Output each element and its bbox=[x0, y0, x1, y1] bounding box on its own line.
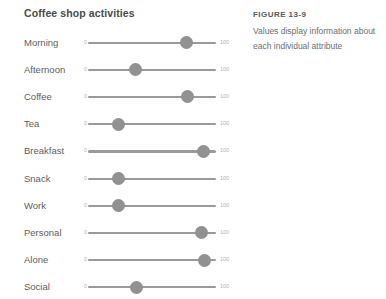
slider-min-label: 0 bbox=[84, 149, 87, 155]
slider-row-label: Morning bbox=[24, 38, 58, 48]
slider-min-label: 0 bbox=[84, 257, 87, 263]
slider-handle[interactable] bbox=[195, 226, 208, 239]
slider-min-label: 0 bbox=[84, 121, 87, 127]
slider-track[interactable] bbox=[88, 96, 216, 98]
slider-max-label: 100 bbox=[220, 121, 229, 127]
slider-handle[interactable] bbox=[112, 172, 125, 185]
slider-row: Morning0100 bbox=[0, 29, 246, 56]
slider-max-label: 100 bbox=[220, 149, 229, 155]
slider-row-label: Personal bbox=[24, 228, 62, 238]
figure-container: Coffee shop activities Morning0100Aftern… bbox=[0, 0, 386, 299]
slider-work[interactable]: 0100 bbox=[84, 192, 232, 219]
slider-row: Work0100 bbox=[0, 192, 246, 219]
slider-min-label: 0 bbox=[84, 40, 87, 46]
slider-max-label: 100 bbox=[220, 203, 229, 209]
slider-min-label: 0 bbox=[84, 203, 87, 209]
slider-row-label: Snack bbox=[24, 174, 50, 184]
slider-min-label: 0 bbox=[84, 285, 87, 291]
slider-row-label: Alone bbox=[24, 255, 48, 265]
slider-coffee[interactable]: 0100 bbox=[84, 83, 232, 110]
slider-row: Afternoon0100 bbox=[0, 56, 246, 83]
slider-min-label: 0 bbox=[84, 176, 87, 182]
figure-caption-heading: FIGURE 13-9 bbox=[253, 10, 378, 19]
slider-handle[interactable] bbox=[181, 90, 194, 103]
slider-social[interactable]: 0100 bbox=[84, 274, 232, 299]
slider-afternoon[interactable]: 0100 bbox=[84, 56, 232, 83]
figure-caption-body: Values display information about each in… bbox=[253, 24, 378, 54]
slider-max-label: 100 bbox=[220, 67, 229, 73]
sliders-panel: Coffee shop activities Morning0100Aftern… bbox=[0, 0, 246, 299]
slider-personal[interactable]: 0100 bbox=[84, 219, 232, 246]
slider-handle[interactable] bbox=[112, 118, 125, 131]
slider-tea[interactable]: 0100 bbox=[84, 111, 232, 138]
slider-max-label: 100 bbox=[220, 285, 229, 291]
slider-track[interactable] bbox=[88, 123, 216, 125]
slider-max-label: 100 bbox=[220, 230, 229, 236]
slider-row: Alone0100 bbox=[0, 247, 246, 274]
slider-track[interactable] bbox=[88, 69, 216, 71]
slider-max-label: 100 bbox=[220, 94, 229, 100]
slider-min-label: 0 bbox=[84, 230, 87, 236]
slider-row-label: Breakfast bbox=[24, 147, 64, 157]
slider-row: Snack0100 bbox=[0, 165, 246, 192]
slider-handle[interactable] bbox=[129, 63, 142, 76]
slider-handle[interactable] bbox=[197, 145, 210, 158]
slider-handle[interactable] bbox=[180, 36, 193, 49]
slider-row-label: Afternoon bbox=[24, 65, 65, 75]
slider-morning[interactable]: 0100 bbox=[84, 29, 232, 56]
slider-row-label: Social bbox=[24, 283, 50, 293]
slider-row-label: Tea bbox=[24, 119, 39, 129]
slider-max-label: 100 bbox=[220, 40, 229, 46]
slider-track[interactable] bbox=[88, 177, 216, 179]
slider-snack[interactable]: 0100 bbox=[84, 165, 232, 192]
slider-row-label: Work bbox=[24, 201, 46, 211]
slider-alone[interactable]: 0100 bbox=[84, 247, 232, 274]
slider-row: Coffee0100 bbox=[0, 83, 246, 110]
slider-max-label: 100 bbox=[220, 176, 229, 182]
slider-row: Social0100 bbox=[0, 274, 246, 299]
slider-track[interactable] bbox=[88, 259, 216, 261]
slider-handle[interactable] bbox=[112, 199, 125, 212]
slider-row: Tea0100 bbox=[0, 111, 246, 138]
slider-row: Personal0100 bbox=[0, 219, 246, 246]
slider-track[interactable] bbox=[88, 42, 216, 44]
slider-row-label: Coffee bbox=[24, 92, 52, 102]
slider-min-label: 0 bbox=[84, 67, 87, 73]
slider-track[interactable] bbox=[88, 205, 216, 207]
slider-handle[interactable] bbox=[130, 281, 143, 294]
slider-breakfast[interactable]: 0100 bbox=[84, 138, 232, 165]
slider-track[interactable] bbox=[88, 286, 216, 288]
slider-min-label: 0 bbox=[84, 94, 87, 100]
figure-caption: FIGURE 13-9 Values display information a… bbox=[253, 10, 378, 54]
slider-handle[interactable] bbox=[198, 254, 211, 267]
slider-max-label: 100 bbox=[220, 257, 229, 263]
page-title: Coffee shop activities bbox=[24, 7, 135, 19]
slider-list: Morning0100Afternoon0100Coffee0100Tea010… bbox=[0, 29, 246, 299]
slider-row: Breakfast0100 bbox=[0, 138, 246, 165]
